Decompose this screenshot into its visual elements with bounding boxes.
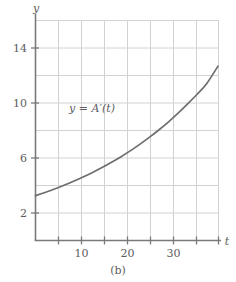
x-tick-label-10: 10 xyxy=(75,247,89,260)
x-axis-label: t xyxy=(225,235,230,248)
horizontal-gridlines xyxy=(35,21,219,214)
figure-container: 14 10 6 2 10 20 30 y t y = A′(t) (b) xyxy=(0,0,236,282)
chart-plot: 14 10 6 2 10 20 30 y t y = A′(t) (b) xyxy=(0,0,236,282)
y-axis-label: y xyxy=(32,2,40,15)
y-tick-label-2: 2 xyxy=(20,207,27,220)
y-tick-label-10: 10 xyxy=(13,97,27,110)
figure-caption: (b) xyxy=(110,264,126,277)
y-tick-label-6: 6 xyxy=(20,152,27,165)
x-tick-label-20: 20 xyxy=(121,247,135,260)
x-tick-label-30: 30 xyxy=(167,247,181,260)
curve-annotation-label: y = A′(t) xyxy=(68,102,115,115)
y-tick-label-14: 14 xyxy=(13,42,27,55)
